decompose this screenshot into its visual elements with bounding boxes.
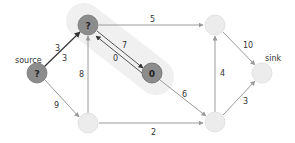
node-source[interactable]: ? source (15, 56, 47, 83)
edge-label: 0 (113, 54, 118, 63)
node-a[interactable]: ? (78, 15, 98, 35)
edge-label: 3 (55, 44, 60, 53)
edge-label: 5 (150, 15, 155, 24)
edge-label: 8 (79, 70, 84, 79)
edge-e-sink (223, 81, 255, 115)
edge-label: 10 (243, 41, 253, 50)
source-caption: source (15, 56, 42, 65)
flow-network-diagram: 3 3 9 8 5 7 0 6 2 4 10 3 ? source ? 0 si… (0, 0, 295, 143)
edge-label: 6 (182, 90, 187, 99)
node-sink[interactable]: sink (252, 54, 281, 83)
edge-label: 9 (54, 101, 59, 110)
node-e[interactable] (205, 112, 225, 132)
edge-label: 3 (62, 54, 67, 63)
node-d[interactable] (205, 15, 225, 35)
sink-caption: sink (265, 54, 281, 63)
svg-text:0: 0 (149, 69, 155, 79)
edge-source-c (45, 80, 79, 117)
edge-label: 3 (243, 97, 248, 106)
edge-label: 2 (151, 128, 156, 137)
node-c[interactable] (78, 113, 98, 133)
edge-label: 7 (122, 41, 127, 50)
svg-text:?: ? (34, 69, 39, 79)
svg-text:?: ? (85, 21, 90, 31)
edge-label: 4 (220, 69, 225, 78)
node-b[interactable]: 0 (142, 63, 162, 83)
